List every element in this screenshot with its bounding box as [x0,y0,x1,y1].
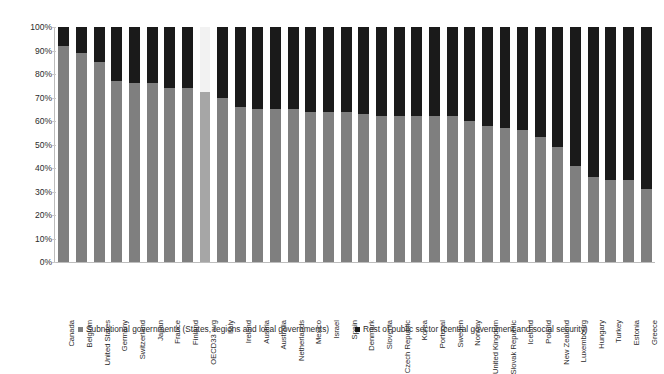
bar-segment-rest-of-public-sector [164,27,175,88]
bar-segment-subnational-governments [641,189,652,262]
y-axis-tick-label: 70% [14,93,52,102]
bar-column [482,27,493,262]
bar-column [94,27,105,262]
bar-segment-rest-of-public-sector [464,27,475,121]
bar-segment-subnational-governments [570,166,581,262]
bar-column [76,27,87,262]
bars-container [55,27,655,262]
bar-column [235,27,246,262]
bar-segment-subnational-governments [94,62,105,262]
bar-column [376,27,387,262]
bar-column [288,27,299,262]
bar-segment-subnational-governments [605,180,616,262]
y-axis-tick-label: 10% [14,234,52,243]
bar-column [517,27,528,262]
y-axis-tick-label: 0% [14,258,52,267]
bar-segment-rest-of-public-sector [535,27,546,137]
bar-segment-subnational-governments [235,107,246,262]
bar-segment-rest-of-public-sector [376,27,387,116]
bar-column [341,27,352,262]
bar-segment-subnational-governments [447,116,458,262]
bar-column [217,27,228,262]
bar-segment-subnational-governments [305,112,316,262]
y-axis-tick-mark [52,262,56,263]
bar-column [535,27,546,262]
bar-segment-subnational-governments [58,46,69,262]
bar-column [570,27,581,262]
bar-segment-rest-of-public-sector [411,27,422,116]
bar-segment-subnational-governments [429,116,440,262]
y-axis-tick-label: 80% [14,70,52,79]
legend-item-subnational-governments: Subnational governments (States, regions… [78,324,329,334]
y-axis-tick-label: 20% [14,211,52,220]
bar-segment-rest-of-public-sector [570,27,581,166]
bar-segment-rest-of-public-sector [641,27,652,189]
bar-segment-subnational-governments [288,109,299,262]
bar-column [358,27,369,262]
bar-column [58,27,69,262]
bar-column [588,27,599,262]
bar-column [323,27,334,262]
bar-segment-rest-of-public-sector [358,27,369,114]
bar-segment-rest-of-public-sector [200,27,211,92]
bar-segment-rest-of-public-sector [235,27,246,107]
bar-segment-rest-of-public-sector [323,27,334,112]
bar-segment-rest-of-public-sector [94,27,105,62]
legend-label-rest-of-public-sector: Rest of public sector (central governmen… [363,324,588,334]
bar-segment-subnational-governments [270,109,281,262]
bar-column [623,27,634,262]
bar-segment-subnational-governments [323,112,334,262]
bar-column [500,27,511,262]
legend-item-rest-of-public-sector: Rest of public sector (central governmen… [355,324,588,334]
x-axis-line [54,262,655,263]
bar-column [200,27,211,262]
bar-segment-subnational-governments [482,126,493,262]
bar-column [305,27,316,262]
bar-column [641,27,652,262]
bar-segment-subnational-governments [111,81,122,262]
bar-segment-rest-of-public-sector [76,27,87,53]
bar-segment-rest-of-public-sector [394,27,405,116]
bar-segment-rest-of-public-sector [623,27,634,180]
bar-column [164,27,175,262]
bar-segment-rest-of-public-sector [288,27,299,109]
bar-segment-subnational-governments [164,88,175,262]
bar-segment-subnational-governments [217,98,228,263]
chart-legend: Subnational governments (States, regions… [0,324,664,342]
bar-segment-rest-of-public-sector [270,27,281,109]
y-axis-tick-label: 30% [14,187,52,196]
legend-swatch-rest-of-public-sector [355,327,360,332]
bar-segment-subnational-governments [129,83,140,262]
bar-segment-rest-of-public-sector [447,27,458,116]
bar-segment-subnational-governments [200,92,211,262]
bar-segment-subnational-governments [376,116,387,262]
bar-segment-subnational-governments [500,128,511,262]
bar-column [394,27,405,262]
bar-segment-subnational-governments [552,147,563,262]
bar-segment-rest-of-public-sector [605,27,616,180]
y-axis-tick-label: 40% [14,164,52,173]
y-axis-tick-label: 50% [14,140,52,149]
bar-segment-subnational-governments [76,53,87,262]
bar-column [447,27,458,262]
bar-segment-subnational-governments [464,121,475,262]
bar-segment-subnational-governments [252,109,263,262]
bar-segment-rest-of-public-sector [500,27,511,128]
bar-segment-subnational-governments [623,180,634,262]
bar-segment-subnational-governments [588,177,599,262]
plot-area: 0%10%20%30%40%50%60%70%80%90%100% Canada… [0,0,664,268]
y-axis: 0%10%20%30%40%50%60%70%80%90%100% [14,20,52,268]
bar-column [429,27,440,262]
y-axis-tick-label: 60% [14,117,52,126]
bar-column [252,27,263,262]
bar-segment-rest-of-public-sector [429,27,440,116]
y-axis-tick-label: 90% [14,46,52,55]
bar-column [147,27,158,262]
bar-segment-subnational-governments [182,88,193,262]
bar-segment-subnational-governments [341,112,352,262]
bar-column [270,27,281,262]
bar-column [111,27,122,262]
bar-segment-rest-of-public-sector [517,27,528,130]
legend-swatch-subnational [78,327,83,332]
